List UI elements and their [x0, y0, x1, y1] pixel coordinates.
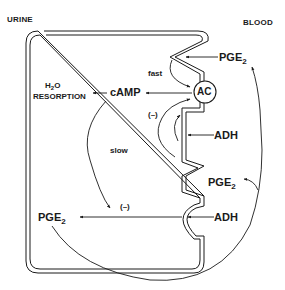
pge2-intracellular-label: PGE2	[38, 212, 66, 223]
h2o-sub: 2	[51, 85, 54, 91]
fast-label: fast	[148, 70, 162, 78]
cell-diagram	[0, 0, 285, 290]
arrow-pge2-mid-curl	[244, 179, 258, 190]
slow-label: slow	[110, 147, 128, 155]
camp-label: cAMP	[110, 87, 141, 98]
arrow-fast	[170, 60, 190, 87]
pge2-top-main: PGE	[219, 51, 242, 63]
adh-upper-label: ADH	[214, 130, 238, 141]
h2o-label: H2O	[45, 82, 60, 90]
inhibit-upper-label: (–)	[148, 111, 158, 119]
pge2-mid-sub: 2	[231, 182, 235, 191]
arrow-inhibit-upper	[174, 115, 180, 141]
resorption-label: RESORPTION	[33, 93, 86, 101]
pge2-intracellular-main: PGE	[38, 211, 61, 223]
inhibit-lower-label: (–)	[120, 203, 130, 211]
pge2-top-label: PGE2	[219, 52, 247, 63]
pge2-mid-label: PGE2	[208, 177, 236, 188]
h2o-o: O	[54, 81, 60, 90]
h2o-h: H	[45, 81, 51, 90]
ac-label: AC	[197, 87, 211, 97]
pge2-mid-main: PGE	[208, 176, 231, 188]
blood-label: BLOOD	[243, 19, 273, 27]
pge2-top-sub: 2	[242, 57, 246, 66]
adh-lower-label: ADH	[214, 212, 238, 223]
pge2-intracellular-sub: 2	[61, 217, 65, 226]
urine-label: URINE	[7, 16, 33, 24]
arrow-camp-to-inhibit	[87, 101, 110, 208]
